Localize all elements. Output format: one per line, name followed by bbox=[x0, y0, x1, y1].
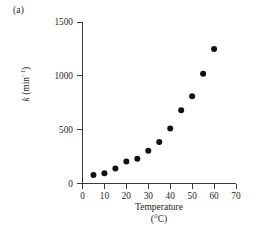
data-point bbox=[178, 107, 184, 113]
x-axis-label-unit: (°C) bbox=[82, 214, 236, 226]
data-point bbox=[134, 156, 140, 162]
data-point-group bbox=[90, 46, 217, 178]
x-tick-label: 40 bbox=[166, 191, 176, 201]
y-tick-label: 0 bbox=[68, 179, 73, 189]
data-point bbox=[189, 93, 195, 99]
x-axis-label-text: Temperature bbox=[82, 202, 236, 214]
x-tick-label: 10 bbox=[100, 191, 110, 201]
data-point bbox=[145, 148, 151, 154]
data-point bbox=[112, 165, 118, 171]
data-point bbox=[211, 46, 217, 52]
data-point bbox=[123, 158, 129, 164]
x-axis-label: Temperature (°C) bbox=[82, 202, 236, 225]
y-tick-label: 1000 bbox=[54, 71, 73, 81]
x-tick-label: 0 bbox=[80, 191, 85, 201]
figure-panel: (a) 050010001500 010203040506070 k (min−… bbox=[0, 0, 261, 237]
x-tick-label: 30 bbox=[144, 191, 154, 201]
y-axis-label-symbol: k bbox=[21, 97, 31, 101]
y-axis-label-units: (min bbox=[21, 77, 31, 95]
data-point bbox=[200, 71, 206, 77]
data-point bbox=[156, 139, 162, 145]
x-tick-group: 010203040506070 bbox=[80, 184, 241, 202]
data-point bbox=[90, 172, 96, 178]
y-tick-label: 1500 bbox=[54, 17, 73, 27]
data-point bbox=[167, 126, 173, 132]
x-tick-label: 20 bbox=[122, 191, 132, 201]
x-tick-label: 60 bbox=[209, 191, 219, 201]
y-axis-label: k (min−1) bbox=[19, 49, 31, 119]
y-axis-label-units-close: ) bbox=[21, 67, 31, 70]
y-axis-label-exponent: −1 bbox=[19, 70, 26, 77]
y-tick-label: 500 bbox=[59, 125, 73, 135]
x-tick-label: 70 bbox=[231, 191, 241, 201]
data-point bbox=[101, 170, 107, 176]
y-tick-group: 050010001500 bbox=[54, 17, 82, 189]
x-tick-label: 50 bbox=[187, 191, 197, 201]
